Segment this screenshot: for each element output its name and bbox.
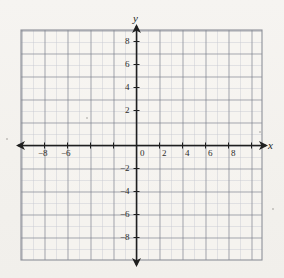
y-tick-label: −2 <box>120 164 130 173</box>
x-tick-label: 0 <box>140 149 145 158</box>
x-tick-label: 6 <box>208 149 213 158</box>
coordinate-plane-figure: y x −8 −6 0 2 4 6 8 8 6 4 2 −2 −4 −6 −8 <box>0 0 284 278</box>
grid-and-axes <box>0 0 284 278</box>
y-tick-label: 6 <box>125 60 130 69</box>
x-tick-label: −8 <box>38 149 48 158</box>
y-tick-label: 8 <box>125 37 130 46</box>
x-tick-label: −6 <box>61 149 71 158</box>
y-tick-label: −4 <box>120 187 130 196</box>
y-axis-label: y <box>133 13 138 24</box>
x-axis-label: x <box>268 140 273 151</box>
x-tick-label: 2 <box>162 149 167 158</box>
y-tick-label: 2 <box>125 106 130 115</box>
y-tick-label: 4 <box>125 83 130 92</box>
y-tick-label: −6 <box>120 210 130 219</box>
x-tick-label: 4 <box>185 149 190 158</box>
y-tick-label: −8 <box>120 233 130 242</box>
x-tick-label: 8 <box>231 149 236 158</box>
